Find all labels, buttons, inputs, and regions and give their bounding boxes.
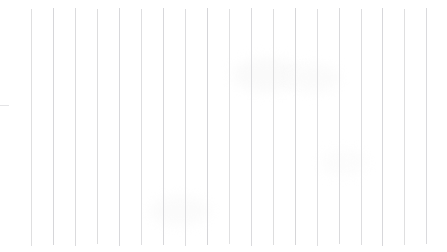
rule-line: [163, 8, 164, 245]
rule-line: [31, 9, 32, 246]
rule-line: [141, 9, 142, 245]
rule-line: [361, 9, 362, 245]
rule-line: [404, 9, 405, 245]
rule-line: [317, 9, 318, 246]
rule-line: [53, 8, 54, 245]
rule-line: [229, 9, 230, 244]
rule-line: [251, 8, 252, 246]
rule-line: [382, 8, 383, 246]
rule-line: [295, 8, 296, 245]
rule-line: [185, 9, 186, 246]
rule-line: [119, 8, 120, 246]
left-edge-scan-mark: [0, 105, 9, 106]
scanned-page: [0, 0, 447, 252]
rule-line: [426, 8, 427, 244]
rule-line: [273, 9, 274, 245]
rule-line: [207, 8, 208, 245]
rule-line: [75, 8, 76, 246]
rule-line: [339, 8, 340, 244]
paper-surface: [0, 0, 447, 252]
rule-line: [97, 9, 98, 244]
